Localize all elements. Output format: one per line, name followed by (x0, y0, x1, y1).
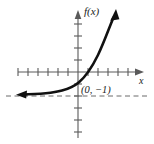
coordinate-plane-svg: f(x) x (0, −1) (0, 0, 154, 144)
function-label: f(x) (84, 5, 100, 18)
y-axis-arrowhead (75, 10, 82, 19)
x-axis-label: x (138, 75, 144, 86)
curve-right-arrowhead (110, 9, 119, 21)
curve-left-arrowhead (16, 91, 27, 99)
graph-figure: f(x) x (0, −1) (0, 0, 154, 144)
y-intercept-label: (0, −1) (81, 84, 111, 96)
